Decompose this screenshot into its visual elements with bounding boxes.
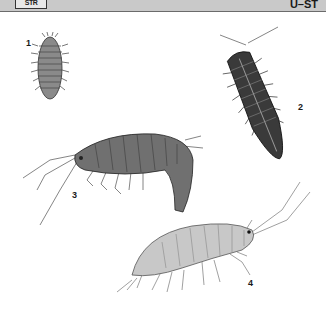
- figure-number-1: 1: [26, 38, 31, 48]
- illustration-amphipod-4: [112, 180, 312, 305]
- figure-number-4: 4: [248, 278, 253, 288]
- section-code: U–ST: [290, 0, 318, 10]
- illustration-woodlouse-2: [218, 25, 298, 175]
- publisher-logo: STR: [15, 0, 47, 9]
- figure-number-2: 2: [298, 102, 303, 112]
- illustration-woodlouse-1: [30, 32, 70, 102]
- page-header-bar: STR U–ST: [0, 0, 326, 12]
- figure-number-3: 3: [72, 190, 77, 200]
